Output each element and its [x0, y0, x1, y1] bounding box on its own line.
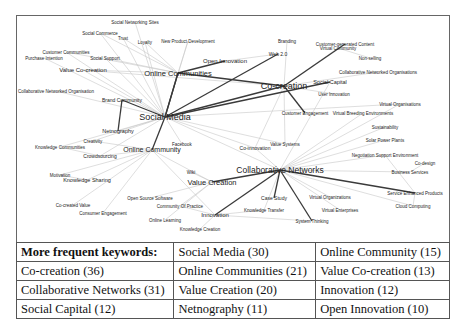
network-edge [284, 41, 287, 86]
node-label-social-capital: Social Capital [313, 79, 347, 85]
node-label-knowledge-communities: Knowledge Communities [35, 145, 86, 150]
node-label-cloud-computing: Cloud Computing [396, 204, 431, 209]
node-label-value-cocreation: Value Co-creation [59, 67, 107, 73]
table-row: Social Capital (12) Netnography (11) Ope… [17, 300, 450, 319]
node-label-knowledge-creation: Knowledge Creation [180, 227, 221, 232]
table-cell: Open Innovation (10) [316, 300, 450, 319]
node-label-community-of-practice: Community Of Practice [157, 204, 204, 209]
table-cell: Innovation (12) [316, 281, 450, 300]
frequent-keywords-table: More frequent keywords: Social Media (30… [16, 242, 450, 319]
node-label-new-product-development: New Product Development [161, 39, 215, 44]
node-label-open-source-software: Open Source Software [127, 196, 173, 201]
node-label-business-services: Business Services [392, 170, 430, 175]
node-label-purchase-intention: Purchase Intention [25, 56, 63, 61]
node-labels: Social Networking SitesSocial CommerceTr… [18, 20, 443, 232]
node-label-co-created-value: Co-created Value [56, 203, 91, 208]
node-label-loyalty: Loyalty [138, 40, 153, 45]
node-label-knowledge-sharing: Knowledge Sharing [63, 177, 111, 183]
node-label-codesign: Co-design [415, 161, 436, 166]
node-label-virtual-organizations-bottom: Virtual Organizations [309, 195, 351, 200]
network-edge [280, 127, 385, 170]
keyword-network-graph: Social Networking SitesSocial CommerceTr… [0, 0, 466, 245]
node-label-virtual-organisations-top: Virtual Organisations [379, 102, 421, 107]
node-label-negotiation-support-environment: Negotiation Support Environment [352, 153, 419, 158]
node-label-service-enhanced-products: Service Enhanced Products [387, 191, 443, 196]
node-label-knowledge-transfer: Knowledge Transfer [244, 208, 285, 213]
node-label-netnography: Netnography [102, 128, 134, 134]
table-cell: Online Communities (21) [174, 262, 316, 281]
node-label-social-commerce: Social Commerce [82, 31, 118, 36]
node-label-sustainability: Sustainability [372, 125, 399, 130]
node-label-system-thinking: System Thinking [295, 219, 329, 224]
network-edge [118, 100, 122, 131]
node-label-case-study: Case Study [261, 195, 287, 201]
table-cell: Online Community (15) [316, 243, 450, 262]
node-label-branding: Branding [278, 39, 297, 44]
node-label-value-creation: Value Creation [187, 178, 236, 187]
node-label-virtual-enterprises: Virtual Enterprises [322, 208, 359, 213]
table-header-cell: More frequent keywords: [17, 243, 174, 262]
node-label-open-innovation: Open Innovation [203, 58, 247, 64]
table-row: Collaborative Networks (31) Value Creati… [17, 281, 450, 300]
table-cell: Social Media (30) [174, 243, 316, 262]
table-cell: Social Capital (12) [17, 300, 174, 319]
node-label-web-2-0: Web 2.0 [269, 51, 288, 57]
node-label-social-media: Social Media [139, 112, 191, 122]
node-label-user-innovation: User Innovation [318, 92, 350, 97]
weak-edges [44, 22, 425, 229]
node-label-collaborative-networks: Collaborative Networks [236, 165, 323, 175]
node-label-solar-power-plants: Solar Power Plants [366, 138, 405, 143]
node-label-non-selling: Non-selling [359, 56, 382, 61]
node-label-co-innovation: Co-innovation [240, 145, 271, 151]
table-cell: Co-creation (36) [17, 262, 174, 281]
table-row: More frequent keywords: Social Media (30… [17, 243, 450, 262]
node-label-trust: Trust [118, 36, 129, 41]
node-label-brand-community: Brand Community [102, 97, 143, 103]
node-label-social-support: Social Support [90, 56, 120, 61]
network-edge [280, 170, 340, 210]
node-label-online-community: Online Community [123, 146, 181, 154]
node-label-customer-communities: Customer Communities [42, 50, 90, 55]
node-label-innovation: Innovation [201, 212, 229, 218]
table-cell: Collaborative Networks (31) [17, 281, 174, 300]
node-label-social-networking-sites: Social Networking Sites [111, 20, 159, 25]
node-label-wiki: Wiki [187, 170, 196, 175]
node-label-virtual-breeding-environments: Virtual Breeding Environments [333, 111, 394, 116]
table-cell: Value Co-creation (13) [316, 262, 450, 281]
table-cell: Netnography (11) [174, 300, 316, 319]
node-label-collab-networked-orgs-left: Collaborative Networked Organisation [18, 89, 94, 94]
node-label-virtual-community: Virtual Community [320, 46, 357, 51]
table-cell: Value Creation (20) [174, 281, 316, 300]
node-label-crowdsourcing: Crowdsourcing [83, 153, 117, 159]
node-label-cocreation: Co-creation [261, 81, 308, 91]
table-row: Co-creation (36) Online Communities (21)… [17, 262, 450, 281]
node-label-creativity: Creativity [84, 139, 104, 144]
node-label-consumer-engagement: Consumer Engagement [79, 211, 127, 216]
node-label-collab-networked-orgs-right: Collaborative Networked Organisations [339, 70, 418, 75]
node-label-value-systems: Value Systems [270, 142, 300, 147]
node-label-customer-engagement-top: Customer Engagement [282, 111, 329, 116]
node-label-online-communities: Online Communities [144, 69, 212, 78]
node-label-online-learning: Online Learning [149, 218, 181, 223]
